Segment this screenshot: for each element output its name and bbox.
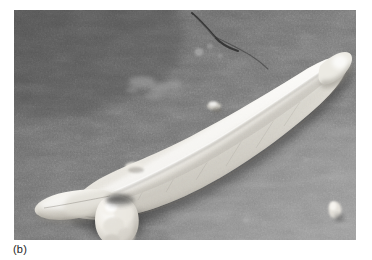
figure-caption-label: (b) [13,243,27,256]
image-grain-overlay [14,10,356,240]
figure-panel: (b) [0,0,372,260]
micrograph-canvas [14,10,356,240]
electron-micrograph-image [14,10,356,240]
